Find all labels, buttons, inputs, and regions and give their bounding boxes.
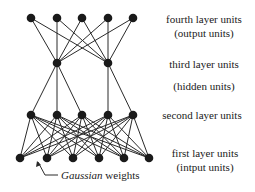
second-layer-label: second layer units <box>148 109 255 121</box>
gaussian-italic: Gaussian <box>61 169 103 181</box>
fourth-layer-title: fourth layer units <box>152 13 255 25</box>
third-layer-subtitle: (hidden units) <box>152 80 255 92</box>
edge <box>57 18 82 63</box>
first-layer-title: first layer units <box>155 147 255 159</box>
third-layer-title: third layer units <box>152 58 255 70</box>
edge <box>108 18 133 63</box>
fourth-layer-subtitle: (output units) <box>152 27 255 39</box>
connection-edges <box>20 18 149 158</box>
unit-node-second <box>78 111 87 120</box>
second-layer-title: second layer units <box>148 109 255 121</box>
fourth-layer-label: fourth layer units (output units) <box>152 13 255 39</box>
unit-node-second <box>104 111 113 120</box>
unit-node-first <box>43 154 52 163</box>
unit-node-fourth <box>78 14 87 23</box>
unit-node-first <box>95 154 104 163</box>
unit-node-first <box>69 154 78 163</box>
edge <box>108 63 133 115</box>
edge <box>57 18 133 63</box>
unit-node-fourth <box>27 14 36 23</box>
unit-node-fourth <box>53 14 62 23</box>
first-layer-label: first layer units (intput units) <box>155 147 255 173</box>
first-layer-subtitle: (intput units) <box>155 161 255 173</box>
gaussian-arrow-icon <box>36 161 58 175</box>
third-layer-label: third layer units (hidden units) <box>152 58 255 92</box>
unit-node-fourth <box>129 14 138 23</box>
unit-node-first <box>16 154 25 163</box>
weights-text: weights <box>103 169 140 181</box>
edge <box>31 63 57 115</box>
edge <box>57 63 82 115</box>
unit-node-second <box>27 111 36 120</box>
edge <box>31 18 57 63</box>
gaussian-weights-label: Gaussian weights <box>61 169 140 181</box>
unit-node-third <box>53 59 62 68</box>
arrow-shaft <box>38 162 58 175</box>
unit-node-third <box>104 59 113 68</box>
unit-node-second <box>129 111 138 120</box>
unit-node-first <box>145 154 154 163</box>
unit-node-second <box>53 111 62 120</box>
unit-node-fourth <box>104 14 113 23</box>
unit-node-first <box>120 154 129 163</box>
